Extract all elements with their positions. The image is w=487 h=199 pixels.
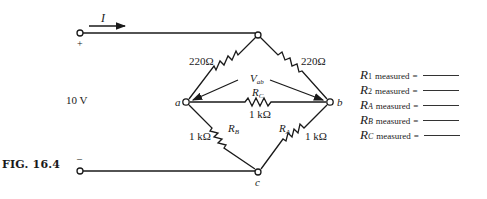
blank-line [424,135,460,136]
node-top [255,32,261,38]
node-b-label: b [337,96,343,108]
r1-value: 220Ω [189,55,214,67]
blank-line [423,105,459,106]
resistor-r1 [189,37,256,99]
resistor-r2 [260,37,327,99]
rb-label: RB [227,122,240,136]
measurement-row-ra: RA measured = [360,97,460,112]
measurement-row-r2: R2 measured = [360,82,460,97]
ra-label: RA [278,122,291,136]
positive-sign: + [77,38,83,49]
ra-value: 1 kΩ [305,130,327,142]
rb-value: 1 kΩ [189,130,211,142]
negative-terminal [77,168,83,174]
node-a [183,99,189,105]
node-c [255,169,261,175]
figure-caption: FIG. 16.4 [2,158,60,171]
node-c-label: c [255,176,260,188]
vab-arrow-left [193,80,238,100]
measurement-row-r1: R1 measured = [360,67,460,82]
positive-terminal [77,30,83,36]
node-b [327,99,333,105]
vab-arrow-right [270,80,323,100]
node-a-label: a [175,96,181,108]
r2-value: 220Ω [301,55,326,67]
current-label: I [100,11,106,25]
measurement-list: R1 measured = R2 measured = RA measured … [360,67,460,142]
blank-line [423,75,459,76]
rc-value: 1 kΩ [249,108,271,120]
source-voltage-label: 10 V [66,94,88,106]
negative-sign: – [76,153,83,164]
rc-label: RC [251,86,264,100]
blank-line [423,120,459,121]
measurement-row-rc: RC measured = [360,127,460,142]
vab-label: Vab [250,72,264,86]
measurement-row-rb: RB measured = [360,112,460,127]
blank-line [423,90,459,91]
